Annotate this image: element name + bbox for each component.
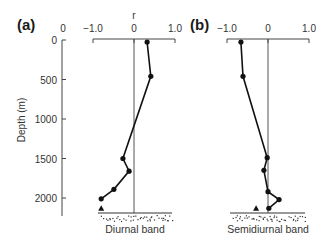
sediment-pattern bbox=[233, 215, 306, 222]
data-point bbox=[111, 187, 116, 192]
panel-a-depth-axis-top-label: 0 bbox=[60, 23, 66, 34]
sediment-dot bbox=[121, 221, 122, 222]
sediment-dot bbox=[272, 221, 273, 222]
depth-tick-label: 2000 bbox=[35, 193, 58, 204]
sediment-dot bbox=[144, 216, 145, 217]
sediment-dot bbox=[297, 218, 298, 219]
sediment-dot bbox=[233, 218, 234, 219]
data-point bbox=[238, 39, 243, 44]
sediment-dot bbox=[289, 216, 290, 217]
sediment-dot bbox=[143, 218, 144, 219]
sediment-dot bbox=[240, 216, 241, 217]
sediment-dot bbox=[305, 217, 306, 218]
sediment-dot bbox=[106, 219, 107, 220]
depth-tick-label: 0 bbox=[51, 35, 57, 46]
sediment-dot bbox=[242, 220, 243, 221]
sediment-dot bbox=[110, 219, 111, 220]
sediment-dot bbox=[162, 220, 163, 221]
sediment-dot bbox=[154, 219, 155, 220]
series-line-correlation bbox=[241, 42, 279, 208]
sediment-dot bbox=[300, 216, 301, 217]
sediment-dot bbox=[237, 220, 238, 221]
sediment-dot bbox=[295, 216, 296, 217]
data-point bbox=[126, 169, 131, 174]
data-point bbox=[148, 74, 153, 79]
sediment-dot bbox=[274, 215, 275, 216]
sediment-pattern bbox=[101, 215, 174, 222]
sediment-dot bbox=[169, 216, 170, 217]
sediment-dot bbox=[165, 219, 166, 220]
r-tick-label: −1.0 bbox=[83, 23, 103, 34]
panel-a-y-axis-title: Depth (m) bbox=[16, 98, 27, 142]
sediment-dot bbox=[302, 216, 303, 217]
sediment-dot bbox=[103, 218, 104, 219]
sediment-dot bbox=[141, 217, 142, 218]
r-tick-label: 0 bbox=[265, 23, 271, 34]
sediment-dot bbox=[137, 219, 138, 220]
sediment-dot bbox=[119, 219, 120, 220]
sediment-dot bbox=[259, 220, 260, 221]
panel-b: (b) −1.001.0 Semidiurnal band bbox=[190, 16, 316, 235]
panel-a-marks bbox=[98, 39, 153, 210]
sediment-dot bbox=[295, 220, 296, 221]
sediment-dot bbox=[285, 220, 286, 221]
sediment-dot bbox=[163, 218, 164, 219]
data-point bbox=[240, 74, 245, 79]
sediment-dot bbox=[252, 218, 253, 219]
sediment-dot bbox=[276, 217, 277, 218]
sediment-dot bbox=[247, 218, 248, 219]
sediment-dot bbox=[147, 220, 148, 221]
panel-a-x-axis-title: r bbox=[132, 10, 136, 21]
sediment-dot bbox=[239, 218, 240, 219]
sediment-dot bbox=[271, 219, 272, 220]
r-tick-label: 1.0 bbox=[168, 23, 182, 34]
sediment-dot bbox=[291, 217, 292, 218]
panel-b-x-tick-labels: −1.001.0 bbox=[217, 23, 316, 34]
sediment-dot bbox=[248, 216, 249, 217]
sediment-dot bbox=[264, 217, 265, 218]
sediment-dot bbox=[246, 215, 247, 216]
sediment-dot bbox=[305, 221, 306, 222]
sediment-dot bbox=[112, 218, 113, 219]
panel-a: (a) r Depth (m) 0 −1.001.0 0500100015002… bbox=[16, 10, 182, 235]
panel-a-x-tick-labels: −1.001.0 bbox=[83, 23, 182, 34]
data-point-triangle bbox=[253, 205, 259, 211]
sediment-dot bbox=[267, 220, 268, 221]
sediment-dot bbox=[157, 215, 158, 216]
sediment-dot bbox=[114, 221, 115, 222]
sediment-dot bbox=[107, 220, 108, 221]
r-tick-label: 1.0 bbox=[302, 23, 316, 34]
sediment-dot bbox=[135, 216, 136, 217]
sediment-dot bbox=[279, 221, 280, 222]
sediment-dot bbox=[256, 219, 257, 220]
sediment-dot bbox=[133, 216, 134, 217]
sediment-dot bbox=[254, 219, 255, 220]
sediment-dot bbox=[150, 220, 151, 221]
sediment-dot bbox=[126, 220, 127, 221]
sediment-dot bbox=[161, 218, 162, 219]
data-point bbox=[120, 156, 125, 161]
sediment-dot bbox=[149, 219, 150, 220]
r-tick-label: −1.0 bbox=[217, 23, 237, 34]
series-line-correlation bbox=[101, 42, 151, 199]
sediment-dot bbox=[151, 216, 152, 217]
sediment-dot bbox=[260, 216, 261, 217]
sediment-dot bbox=[123, 218, 124, 219]
data-point-triangle bbox=[98, 205, 104, 211]
sediment-dot bbox=[167, 220, 168, 221]
depth-tick-label: 500 bbox=[40, 75, 57, 86]
sediment-dot bbox=[281, 219, 282, 220]
figure: (a) r Depth (m) 0 −1.001.0 0500100015002… bbox=[0, 0, 333, 249]
sediment-dot bbox=[263, 218, 264, 219]
sediment-dot bbox=[140, 218, 141, 219]
sediment-dot bbox=[131, 216, 132, 217]
sediment-dot bbox=[259, 216, 260, 217]
sediment-dot bbox=[263, 219, 264, 220]
sediment-dot bbox=[146, 217, 147, 218]
sediment-dot bbox=[118, 216, 119, 217]
data-point bbox=[265, 155, 270, 160]
data-point bbox=[265, 189, 270, 194]
panel-a-caption: Diurnal band bbox=[105, 223, 165, 235]
sediment-dot bbox=[270, 216, 271, 217]
sediment-dot bbox=[133, 220, 134, 221]
